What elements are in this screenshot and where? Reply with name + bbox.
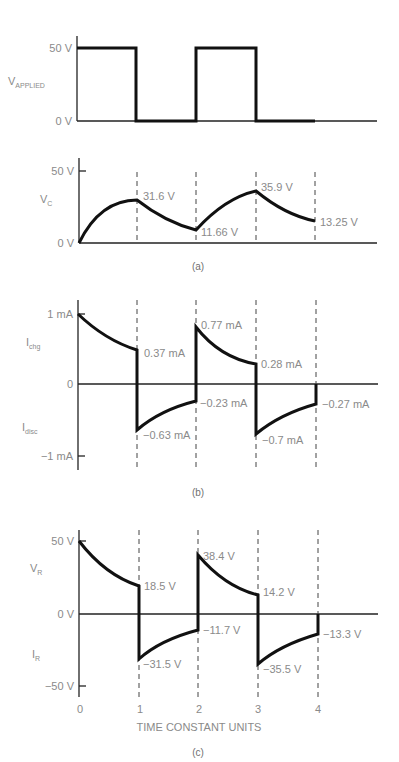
annotation: 13.25 V: [320, 216, 359, 228]
tick-0v: 0 V: [57, 608, 74, 620]
vr-curve: [79, 541, 318, 664]
ylabel-v-r: VR: [30, 562, 42, 576]
square-wave: [77, 48, 315, 121]
xtick: 3: [255, 703, 261, 715]
annotation: 0.37 mA: [144, 347, 186, 359]
xtick: 0: [77, 703, 83, 715]
rc-waveform-diagram: 50 V 0 V VAPPLIED 50 V 0 V VC 31.6 V 11.…: [0, 0, 399, 762]
current-curve: [78, 314, 316, 434]
annotation: 38.4 V: [203, 550, 235, 562]
annotation: −35.5 V: [263, 663, 302, 675]
caption-a: (a): [192, 261, 204, 272]
panel-v-c: 50 V 0 V VC 31.6 V 11.66 V 35.9 V 13.25 …: [40, 158, 377, 272]
xtick: 2: [196, 703, 202, 715]
annotation: −0.63 mA: [143, 429, 191, 441]
annotation: 0.77 mA: [201, 319, 243, 331]
panel-v-applied: 50 V 0 V VAPPLIED: [8, 36, 377, 127]
annotation: −0.23 mA: [200, 397, 248, 409]
annotation: 31.6 V: [143, 190, 175, 202]
tick-50v: 50 V: [49, 42, 72, 54]
annotation: 0.28 mA: [261, 358, 303, 370]
ylabel-i-r: IR: [32, 648, 40, 662]
tick-50v: 50 V: [51, 535, 74, 547]
panel-current: 1 mA 0 −1 mA Ichg Idisc 0.37 mA 0.77 mA …: [22, 300, 378, 498]
annotation: −31.5 V: [143, 658, 182, 670]
caption-c: (c): [192, 747, 204, 758]
annotation: 11.66 V: [201, 226, 239, 238]
ylabel-v-c: VC: [40, 193, 52, 207]
tick-0v: 0 V: [57, 237, 74, 249]
tick-0v: 0 V: [55, 115, 72, 127]
tick-minus-50v: −50 V: [45, 680, 75, 692]
ylabel-v-applied: VAPPLIED: [8, 75, 45, 89]
ylabel-i-disc: Idisc: [22, 421, 38, 435]
xtick: 4: [315, 703, 321, 715]
annotation: −11.7 V: [203, 624, 241, 636]
vc-curve: [79, 191, 315, 243]
xtick: 1: [137, 703, 143, 715]
tick-minus-1ma: −1 mA: [41, 450, 74, 462]
annotation: 18.5 V: [144, 580, 176, 592]
tick-0: 0: [67, 378, 73, 390]
caption-b: (b): [192, 487, 204, 498]
x-axis-label: TIME CONSTANT UNITS: [137, 721, 262, 733]
annotation: 35.9 V: [261, 181, 293, 193]
panel-v-r: 50 V 0 V −50 V VR IR 18.5 V 38.4 V 14.2 …: [30, 530, 378, 758]
tick-50v: 50 V: [51, 165, 74, 177]
ylabel-i-chg: Ichg: [26, 336, 40, 351]
annotation: 14.2 V: [263, 586, 295, 598]
annotation: −0.7 mA: [262, 434, 304, 446]
annotation: −0.27 mA: [322, 398, 370, 410]
tick-1ma: 1 mA: [47, 308, 73, 320]
annotation: −13.3 V: [323, 628, 362, 640]
